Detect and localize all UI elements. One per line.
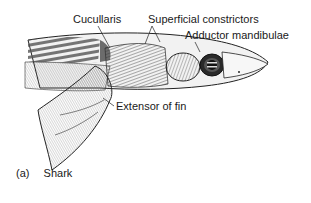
caption-text: Shark [44, 167, 73, 179]
label-cucullaris: Cucullaris [73, 13, 121, 25]
eye [200, 54, 224, 76]
caption-letter: (a) [16, 167, 29, 179]
label-extensor-of-fin: Extensor of fin [116, 100, 186, 112]
label-superficial-constrictors: Superficial constrictors [148, 13, 259, 25]
label-adductor-mandibulae: Adductor mandibulae [185, 29, 289, 41]
adductor-mandibulae-muscle [166, 53, 200, 81]
figure-caption: (a) Shark [16, 167, 72, 179]
nostril [238, 71, 240, 73]
snout [222, 52, 268, 78]
